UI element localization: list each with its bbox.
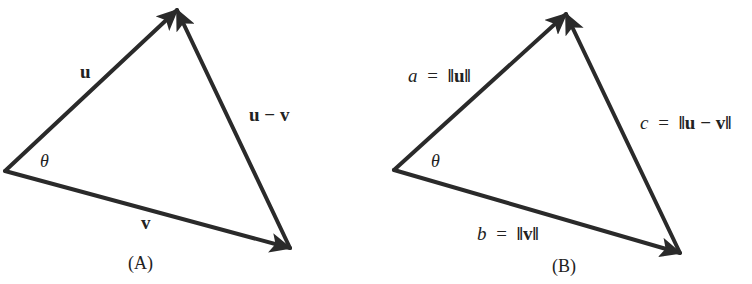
label-theta-b: θ: [431, 152, 440, 170]
label-a-var: a: [408, 65, 418, 86]
label-b-eq: =: [496, 223, 507, 244]
vector-u-arrow: [5, 10, 177, 171]
label-c-equals-norm-u-minus-v: c = ‖u − v‖: [640, 113, 731, 132]
side-c-arrow: [566, 14, 680, 253]
label-b-equals-norm-v: b = ‖v‖: [477, 224, 539, 243]
vector-u-minus-v-arrow: [177, 10, 290, 248]
label-a-norm: ‖u‖: [448, 65, 471, 86]
panel-b-triangle: [394, 14, 680, 253]
label-b-var: b: [477, 223, 487, 244]
label-c-var: c: [640, 112, 648, 133]
caption-a: (A): [128, 254, 153, 272]
label-v: v: [141, 213, 151, 232]
label-u: u: [80, 62, 91, 81]
caption-b: (B): [552, 257, 576, 275]
label-theta-a: θ: [40, 152, 49, 170]
label-b-norm: ‖v‖: [517, 223, 539, 244]
vector-v-arrow: [5, 171, 290, 248]
label-c-norm: ‖u − v‖: [679, 112, 732, 133]
side-a-arrow: [394, 14, 566, 170]
label-a-equals-norm-u: a = ‖u‖: [408, 66, 471, 85]
label-c-eq: =: [658, 112, 669, 133]
vector-triangles-diagram: [0, 0, 752, 284]
label-a-eq: =: [427, 65, 438, 86]
label-u-minus-v: u − v: [249, 105, 289, 124]
